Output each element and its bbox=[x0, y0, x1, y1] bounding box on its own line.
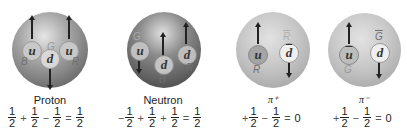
proton-diagram: u u d B G R Proton 12 + 12 − 12 = 12 bbox=[0, 0, 100, 140]
color-label-r-bar: R bbox=[283, 31, 290, 42]
spin-equation: + 12 − 12 = 0 bbox=[242, 106, 301, 129]
spin-equation: 12 + 12 − 12 = 12 bbox=[8, 106, 84, 129]
particle-name: Proton bbox=[0, 94, 100, 106]
color-label-b: B bbox=[21, 56, 28, 67]
neutron-diagram: G u d d B R Neutron − 12 + 12 + 12 = 12 bbox=[113, 0, 213, 140]
color-label-b: B bbox=[159, 74, 166, 85]
color-label-g: G bbox=[344, 64, 352, 75]
spin-up-arrow-icon bbox=[31, 19, 33, 39]
pi-minus-diagram: u G G d π⁻ + 12 − 12 = 0 bbox=[314, 0, 407, 140]
quark-d: d bbox=[154, 55, 174, 75]
pi-plus-sphere bbox=[236, 12, 310, 88]
color-label-r: R bbox=[253, 64, 260, 75]
color-label-g: G bbox=[47, 41, 55, 52]
quark-u: u bbox=[248, 45, 268, 65]
spin-up-arrow-icon bbox=[348, 26, 350, 44]
spin-down-arrow-icon bbox=[49, 66, 51, 86]
quark-d: d bbox=[370, 43, 390, 63]
pi-plus-diagram: u R R d π⁺ + 12 − 12 = 0 bbox=[223, 0, 323, 140]
quark-d-bar: d bbox=[279, 43, 299, 63]
spin-up-arrow-icon bbox=[185, 26, 187, 44]
spin-up-arrow-icon bbox=[162, 36, 164, 56]
spin-up-arrow-icon bbox=[68, 19, 70, 39]
quark-d: d bbox=[40, 49, 60, 69]
quark-u: u bbox=[130, 41, 150, 61]
spin-equation: − 12 + 12 + 12 = 12 bbox=[118, 106, 201, 129]
particle-name: π⁺ bbox=[223, 94, 323, 105]
spin-equation: + 12 − 12 = 0 bbox=[333, 106, 392, 129]
color-label-g-bar: G bbox=[375, 31, 383, 42]
spin-up-arrow-icon bbox=[257, 26, 259, 44]
quark-u-bar: u bbox=[339, 45, 359, 65]
color-label-r: R bbox=[72, 56, 79, 67]
particle-name: π⁻ bbox=[314, 94, 407, 105]
color-label-r: R bbox=[186, 62, 193, 73]
